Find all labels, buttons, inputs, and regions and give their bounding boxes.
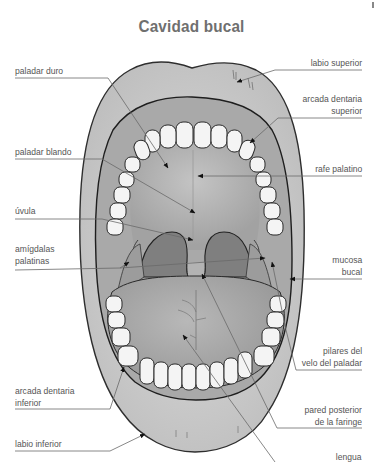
label-mucosa-bucal: mucosa bucal [332,254,362,278]
label-lengua: lengua [336,451,362,462]
label-rafe-palatino: rafe palatino [315,163,362,175]
label-arcada-dentaria-inferior: arcada dentaria inferior [15,385,74,409]
label-amigdalas-palatinas: amígdalas palatinas [15,243,54,267]
palate [130,145,259,250]
label-paladar-duro: paladar duro [15,65,63,77]
label-pared-posterior-faringe: pared posterior de la faringe [304,404,362,428]
label-labio-inferior: labio inferior [15,438,62,450]
label-uvula: úvula [15,205,35,217]
label-labio-superior: labio superior [311,57,362,69]
label-arcada-dentaria-superior: arcada dentaria superior [303,93,362,117]
label-paladar-blando: paladar blando [15,146,72,158]
label-pilares-velo-paladar: pilares del velo del paladar [302,345,362,369]
